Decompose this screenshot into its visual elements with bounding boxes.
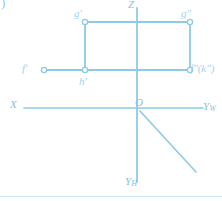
yh-axis-line xyxy=(140,111,196,172)
axis-label-z: Z xyxy=(128,0,134,10)
point-marker-f-prime xyxy=(41,67,46,72)
point-marker-h-prime xyxy=(82,67,87,72)
axis-label-y-h: YH xyxy=(125,176,137,188)
axis-label-y-w-subscript: W xyxy=(209,104,216,113)
figure-canvas xyxy=(0,0,222,201)
axis-label-y-h-subscript: H xyxy=(131,179,137,188)
figure-index-label: ) xyxy=(1,0,5,9)
axis-label-origin: O xyxy=(135,97,143,108)
point-marker-g-dprime xyxy=(187,19,192,24)
point-marker-g-prime xyxy=(82,19,87,24)
point-label-f-prime: f' xyxy=(22,63,27,74)
axis-label-y-w: YW xyxy=(203,101,216,113)
projection-figure: ) g' g" f' f"(k") h' Z X YW YH O xyxy=(0,0,222,201)
point-label-h-prime: h' xyxy=(79,76,87,87)
point-label-g-prime: g' xyxy=(74,8,82,19)
point-label-g-dprime: g" xyxy=(181,8,191,19)
axis-label-x: X xyxy=(10,99,17,110)
point-label-f-dprime-k-dprime: f"(k") xyxy=(190,63,215,74)
